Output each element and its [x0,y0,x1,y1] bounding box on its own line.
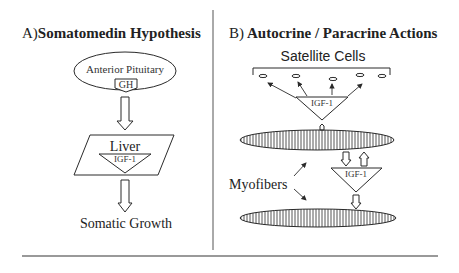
satellite-cell-icon [356,73,364,76]
arrow-icon [294,189,306,200]
igf1-label-b-bottom: IGF-1 [345,169,367,179]
panel-b: B)Autocrine / Paracrine Actions Satellit… [229,25,438,227]
myofibers-label: Myofibers [229,177,287,192]
satellite-bracket [253,68,390,75]
satellite-cells [259,73,386,80]
satellite-cell-icon [329,77,337,80]
pituitary-label: Anterior Pituitary [86,63,164,75]
arrow-icon [294,163,306,176]
satellite-cell-icon [378,74,386,77]
panel-a-title: A)Somatomedin Hypothesis [22,25,201,42]
satellite-cell-icon [292,74,300,77]
arrow-down-icon [341,152,351,166]
arrow-icon [348,84,362,96]
gh-label: GH [119,79,133,90]
panel-a: A)Somatomedin Hypothesis Anterior Pituit… [22,25,201,231]
myofiber-bottom [240,209,396,227]
arrow-up-icon [359,152,369,166]
arrow-down-icon [117,97,133,130]
arrow-icon [298,82,307,96]
figure-canvas: A)Somatomedin Hypothesis Anterior Pituit… [0,0,459,273]
satellite-cell-icon [259,74,267,77]
panel-b-title: B)Autocrine / Paracrine Actions [229,25,438,42]
satellite-cells-label: Satellite Cells [281,48,366,64]
arrow-up-icon [320,124,324,130]
liver-label: Liver [110,139,141,154]
myofiber-top [240,130,394,150]
arrow-icon [268,83,296,98]
arrow-down-icon [351,195,361,209]
arrow-down-icon [118,180,132,212]
igf1-label-a: IGF-1 [114,154,136,164]
somatic-growth-label: Somatic Growth [80,216,172,231]
igf1-label-b-top: IGF-1 [311,98,333,108]
